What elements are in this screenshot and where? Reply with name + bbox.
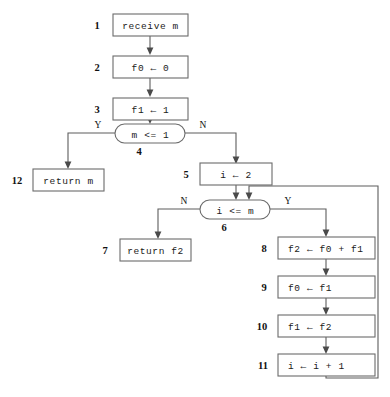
node-7-return-f2[interactable]: return f2 [120,239,191,261]
node-9-label: f0 ← f1 [288,283,332,294]
node-1-label: receive m [122,21,179,32]
flowchart-canvas: receive m 1 f0 ← 0 2 f1 ← 1 3 m <= 1 4 Y… [0,0,390,397]
branch-label-6-no: N [181,196,188,206]
branch-label-4-no: N [200,120,207,130]
step-number-8: 8 [261,243,266,254]
node-5-label: i ← 2 [220,170,252,181]
arrowhead-4-yes-to-12 [65,162,72,170]
step-number-7: 7 [102,245,107,256]
node-3-f1-assign[interactable]: f1 ← 1 [113,98,188,120]
branch-label-6-yes: Y [285,196,292,206]
node-4-decision-m-le-1[interactable]: m <= 1 [115,124,185,143]
node-1-receive-m[interactable]: receive m [113,14,188,36]
node-11-i-increment[interactable]: i ← i + 1 [278,354,375,376]
node-2-f0-assign[interactable]: f0 ← 0 [113,56,188,78]
arrowhead-8-to-9 [323,269,330,277]
step-number-4: 4 [136,146,142,157]
arrowhead-6-yes-to-8 [323,230,330,238]
step-number-5: 5 [183,169,188,180]
node-6-decision-i-le-m[interactable]: i <= m [200,200,270,219]
step-number-9: 9 [261,282,266,293]
node-2-label: f0 ← 0 [132,63,170,74]
node-5-i-assign[interactable]: i ← 2 [200,163,272,185]
step-number-3: 3 [94,104,99,115]
node-8-label: f2 ← f0 + f1 [288,244,364,255]
step-number-11: 11 [258,360,268,371]
edge-6-yes-to-8 [270,209,326,231]
node-6-label: i <= m [217,206,255,217]
node-10-label: f1 ← f2 [288,322,332,333]
step-number-6: 6 [221,222,226,233]
arrowhead-1-to-2 [147,48,154,56]
arrowhead-6-no-to-7 [155,232,162,240]
arrowhead-2-to-3 [147,90,154,98]
edge-4-yes-to-12 [68,133,115,163]
flowchart-svg: receive m 1 f0 ← 0 2 f1 ← 1 3 m <= 1 4 Y… [0,0,390,397]
node-8-f2-assign[interactable]: f2 ← f0 + f1 [278,237,375,259]
node-4-label: m <= 1 [132,130,170,141]
edge-6-no-to-7 [158,209,200,233]
arrowhead-9-to-10 [323,308,330,316]
arrowhead-10-to-11 [323,347,330,355]
edge-4-no-to-5 [185,133,236,158]
node-12-return-m[interactable]: return m [33,169,104,191]
node-7-label: return f2 [127,246,184,257]
arrowhead-5-to-6 [233,193,240,201]
node-11-label: i ← i + 1 [288,361,345,372]
step-number-2: 2 [94,62,99,73]
node-10-f1-assign[interactable]: f1 ← f2 [278,315,375,337]
step-number-1: 1 [94,20,99,31]
node-9-f0-assign[interactable]: f0 ← f1 [278,276,375,298]
node-3-label: f1 ← 1 [132,105,170,116]
node-12-label: return m [43,176,93,187]
step-number-12: 12 [12,175,23,186]
branch-label-4-yes: Y [95,120,102,130]
arrowhead-loopback-to-6 [246,193,253,201]
step-number-10: 10 [257,321,268,332]
